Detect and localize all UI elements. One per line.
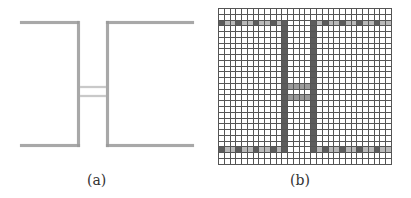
sketch-bridge-top-line [80,86,106,88]
sketch-left-top-edge [20,21,79,24]
sketch-bridge-bottom-line [80,95,106,97]
pixel-grid [218,8,392,165]
sketch-left-bottom-edge [20,144,80,147]
grid-cell [386,159,392,165]
caption-b: (b) [290,172,310,188]
panel-b-grid [218,8,392,165]
sketch-right-top-edge [106,21,194,24]
sketch-right-vertical-edge [106,21,109,147]
sketch-right-bottom-edge [106,144,194,147]
panel-a-sketch: (a) [0,0,205,198]
caption-a: (a) [87,172,106,188]
sketch-left-vertical-edge [77,21,80,147]
